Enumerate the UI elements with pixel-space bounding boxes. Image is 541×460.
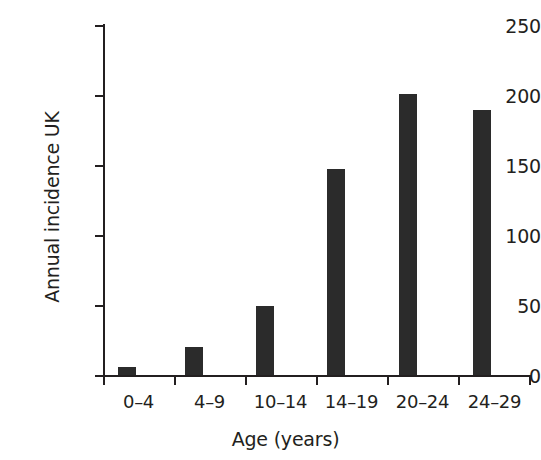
x-axis-label-5: 24–29 — [458, 392, 531, 412]
x-axis-tick-1 — [174, 377, 176, 385]
y-axis-tick-label-150: 150 — [449, 157, 541, 176]
bar-4-9[interactable] — [185, 347, 203, 375]
x-axis-label-3: 14–19 — [316, 392, 387, 412]
bar-24-29[interactable] — [473, 110, 491, 375]
x-axis-tick-5 — [458, 377, 460, 385]
y-axis-tick-150 — [95, 165, 103, 167]
x-axis-tick-0 — [103, 377, 105, 385]
bar-10-14[interactable] — [256, 306, 274, 375]
x-axis-tick-6 — [529, 377, 531, 385]
x-axis-label-4: 20–24 — [387, 392, 458, 412]
y-axis-tick-label-200: 200 — [449, 87, 541, 106]
x-axis-label-2: 10–14 — [245, 392, 316, 412]
y-axis-tick-250 — [95, 25, 103, 27]
x-axis-tick-3 — [316, 377, 318, 385]
bar-20-24[interactable] — [399, 94, 417, 375]
y-axis-tick-100 — [95, 235, 103, 237]
bar-0-4[interactable] — [118, 367, 136, 375]
x-axis-label-0: 0–4 — [103, 392, 174, 412]
x-axis-label-1: 4–9 — [174, 392, 245, 412]
y-axis-title: Annual incidence UK — [41, 57, 63, 357]
y-axis-line — [103, 24, 105, 377]
y-axis-tick-label-0: 0 — [449, 367, 541, 386]
x-axis-tick-2 — [245, 377, 247, 385]
y-axis-tick-200 — [95, 95, 103, 97]
bar-14-19[interactable] — [327, 169, 345, 375]
x-axis-tick-4 — [387, 377, 389, 385]
y-axis-tick-label-100: 100 — [449, 227, 541, 246]
y-axis-tick-0 — [95, 375, 103, 377]
bar-chart-figure: 0 50 100 150 200 250 0–4 4–9 10–14 14–19… — [0, 0, 541, 460]
x-axis-title: Age (years) — [0, 428, 541, 450]
y-axis-tick-label-250: 250 — [449, 17, 541, 36]
y-axis-tick-label-50: 50 — [449, 297, 541, 316]
y-axis-tick-50 — [95, 305, 103, 307]
